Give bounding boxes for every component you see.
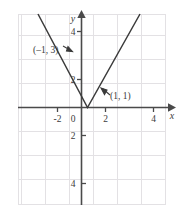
graph-figure: -2 0 2 4 4 2 2 4 x y (–1, 3) (1, 1)	[0, 0, 182, 214]
plot-background	[18, 14, 166, 205]
coordinate-plane-svg: -2 0 2 4 4 2 2 4 x y (–1, 3) (1, 1)	[0, 0, 182, 214]
x-tick-label-4: 4	[151, 114, 156, 124]
y-axis-label: y	[70, 13, 76, 24]
x-tick-label-2: 2	[103, 114, 108, 124]
x-axis-label: x	[169, 110, 175, 121]
y-tick-label-4: 4	[71, 27, 76, 37]
x-tick-label-0: 0	[71, 114, 76, 124]
y-tick-label--4: 4	[71, 179, 76, 189]
point-label-1-1: (1, 1)	[110, 91, 131, 102]
x-tick-label--2: -2	[54, 114, 62, 124]
point-label-neg1-3: (–1, 3)	[33, 45, 58, 56]
y-tick-label--2: 2	[71, 131, 76, 141]
